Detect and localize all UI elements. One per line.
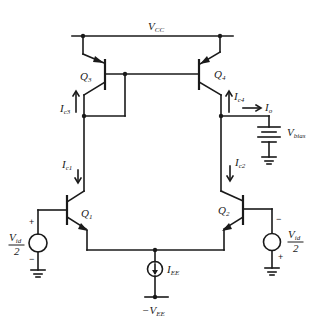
q3-label: Q3 bbox=[80, 70, 92, 84]
transistor-q2 bbox=[221, 191, 272, 250]
ic3-label: Ic3 bbox=[59, 102, 71, 116]
vbias-label: Vbias bbox=[287, 126, 306, 140]
vee-label: −VEE bbox=[142, 304, 165, 318]
vbias-battery bbox=[258, 116, 280, 157]
svg-text:2: 2 bbox=[293, 242, 299, 254]
vcc-rail bbox=[72, 34, 233, 38]
svg-text:Vid: Vid bbox=[9, 231, 22, 245]
io-arrow-icon bbox=[243, 105, 261, 111]
mirror-base-connection bbox=[82, 72, 199, 118]
transistor-q1 bbox=[38, 191, 88, 250]
ground-icon bbox=[31, 270, 45, 277]
ic3-arrow-icon bbox=[73, 91, 79, 112]
vid-left-label: Vid 2 bbox=[9, 231, 24, 257]
vid-left-plus: + bbox=[29, 217, 34, 227]
ground-icon bbox=[262, 157, 276, 164]
q4-label: Q4 bbox=[214, 68, 226, 82]
ic1-arrow-icon bbox=[75, 170, 81, 183]
vid-right-plus: + bbox=[278, 252, 283, 262]
io-label: Io bbox=[264, 101, 273, 115]
q2-label: Q2 bbox=[218, 204, 230, 218]
iee-label: IEE bbox=[166, 263, 180, 277]
emitter-arrow-icon bbox=[200, 56, 210, 64]
q1-label: Q1 bbox=[81, 207, 92, 221]
ic1-label: Ic1 bbox=[61, 158, 72, 172]
ic4-label: Ic4 bbox=[233, 90, 245, 104]
ic2-label: Ic2 bbox=[234, 156, 246, 170]
ground-icon bbox=[265, 268, 279, 275]
emitter-arrow-icon bbox=[93, 56, 104, 63]
vid-right-minus: − bbox=[276, 214, 281, 224]
ic4-arrow-icon bbox=[226, 91, 232, 112]
current-arrow-icon bbox=[152, 270, 158, 275]
ic2-arrow-icon bbox=[227, 166, 233, 181]
vid-right-label: Vid 2 bbox=[288, 228, 303, 254]
circuit-schematic: VCC Q3 Q4 Ic3 Ic4 bbox=[0, 0, 318, 329]
iee-current-source bbox=[145, 262, 168, 300]
svg-text:Vid: Vid bbox=[288, 228, 301, 242]
output-node bbox=[219, 114, 269, 118]
vid-left-minus: − bbox=[29, 254, 34, 264]
vcc-label: VCC bbox=[148, 20, 164, 34]
emitter-tail bbox=[87, 248, 224, 262]
svg-text:2: 2 bbox=[14, 245, 20, 257]
